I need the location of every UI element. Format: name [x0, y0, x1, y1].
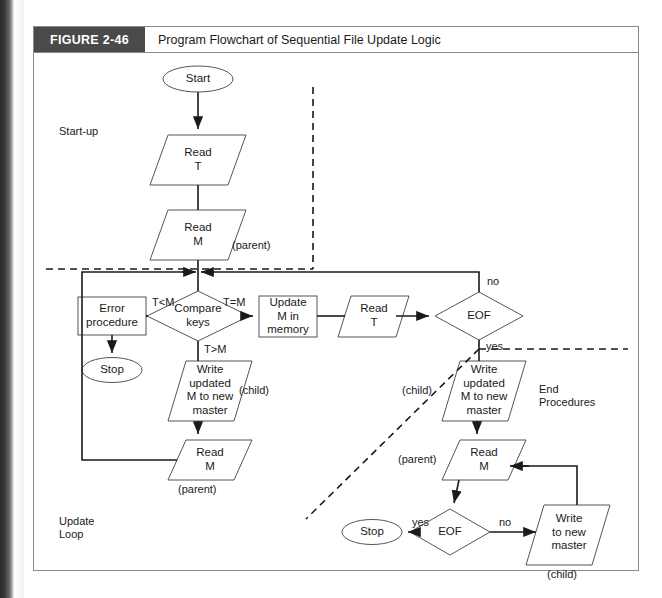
annotation-child-2: (child): [402, 384, 432, 397]
edge-writenew-readm3-loop: [512, 466, 577, 505]
edge-readm3-eof2: [454, 480, 459, 503]
shape-read-m-2: [168, 440, 252, 480]
edge-eof1-no-loop: [203, 272, 479, 292]
shape-error-procedure: [78, 297, 146, 335]
shape-write-updated-2: [442, 361, 526, 421]
book-gutter-fade: [14, 0, 24, 598]
annotation-parent-3: (parent): [398, 453, 437, 466]
flowchart-canvas: Start Read T Read M Error procedure Stop…: [34, 53, 638, 570]
annotation-parent-1: (parent): [232, 239, 271, 252]
shape-stop-2: [342, 520, 402, 545]
figure-number-tag: FIGURE 2-46: [34, 27, 145, 52]
annotation-yes-2: yes: [412, 516, 429, 529]
figure-caption: Program Flowchart of Sequential File Upd…: [158, 27, 441, 52]
divider-diagonal-end: [306, 349, 479, 519]
figure-header: FIGURE 2-46 Program Flowchart of Sequent…: [34, 27, 638, 53]
book-gutter-shadow: [0, 0, 14, 598]
annotation-no-1: no: [487, 275, 499, 288]
annotation-child-1: (child): [239, 384, 269, 397]
flowchart-svg: [34, 53, 638, 570]
annotation-t-lt-m: T<M: [152, 296, 174, 309]
annotation-yes-1: yes: [486, 340, 503, 353]
shape-eof-1: [435, 292, 523, 340]
annotation-no-2: no: [499, 516, 511, 529]
shape-read-m-1: [150, 210, 246, 260]
section-label-end-procedures: End Procedures: [539, 383, 595, 409]
figure-frame: FIGURE 2-46 Program Flowchart of Sequent…: [33, 26, 639, 571]
section-label-startup: Start-up: [59, 125, 98, 138]
annotation-t-eq-m: T=M: [223, 296, 245, 309]
section-label-update-loop: Update Loop: [59, 515, 94, 541]
annotation-parent-2: (parent): [178, 483, 217, 496]
page-background: FIGURE 2-46 Program Flowchart of Sequent…: [0, 0, 662, 598]
shape-read-t-1: [150, 135, 246, 185]
shape-stop-1: [82, 358, 142, 383]
shape-write-new-master: [526, 505, 610, 565]
shape-read-m-3: [442, 440, 526, 480]
annotation-t-gt-m: T>M: [204, 343, 226, 356]
annotation-child-3: (child): [547, 568, 577, 581]
shape-start: [163, 66, 233, 92]
shape-update-m: [259, 296, 317, 337]
